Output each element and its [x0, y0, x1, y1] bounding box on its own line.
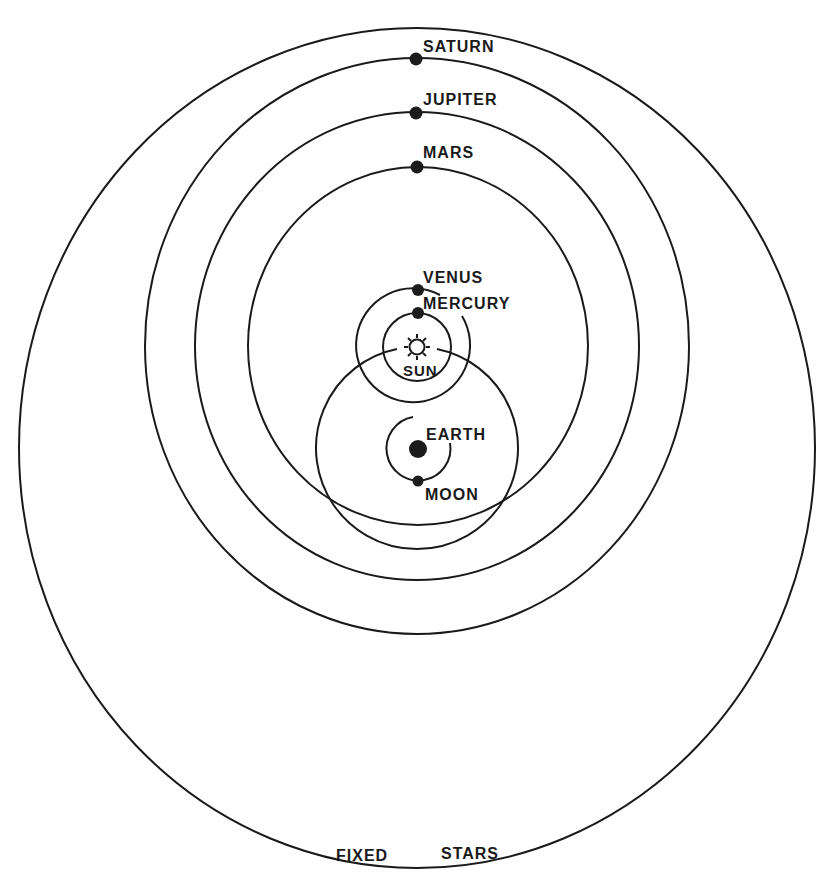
label-earth: EARTH	[426, 426, 486, 443]
label-mercury: MERCURY	[423, 295, 510, 312]
label-jupiter: JUPITER	[423, 91, 498, 108]
label-saturn: SATURN	[423, 38, 494, 55]
jupiter-body	[410, 107, 423, 120]
label-stars: STARS	[441, 845, 499, 862]
tychonic-system-diagram: SATURN JUPITER MARS VENUS MERCURY SUN EA…	[0, 0, 824, 882]
label-moon: MOON	[425, 486, 479, 503]
sun-icon	[404, 334, 430, 360]
label-fixed: FIXED	[336, 847, 388, 864]
label-sun: SUN	[403, 362, 438, 379]
earth-body	[409, 440, 427, 458]
label-venus: VENUS	[423, 269, 483, 286]
label-mars: MARS	[423, 144, 474, 161]
saturn-body	[410, 53, 423, 66]
moon-body	[413, 476, 424, 487]
mars-body	[411, 161, 424, 174]
